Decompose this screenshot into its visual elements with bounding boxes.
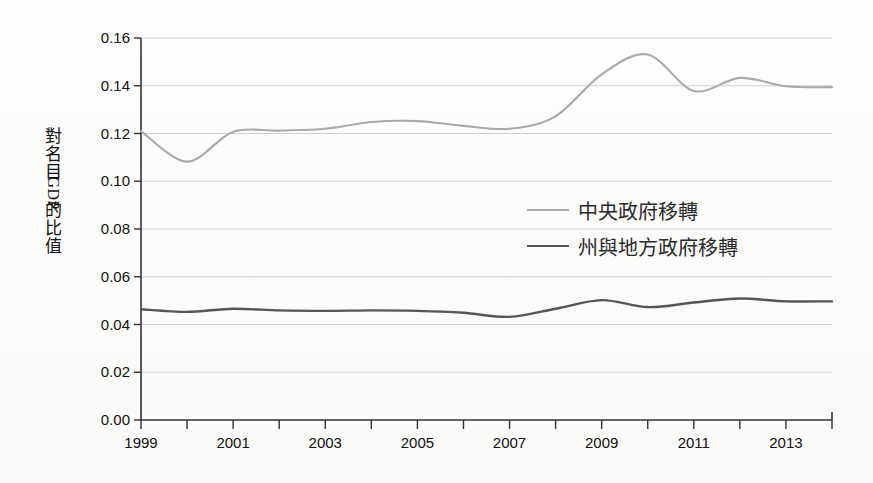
x-tick-label: 2011: [669, 434, 719, 451]
x-tick-label: 2009: [577, 434, 627, 451]
y-axis-title-char: 比: [38, 220, 68, 238]
chart-figure: 0.000.020.040.060.080.100.120.140.16 199…: [0, 0, 873, 483]
x-tick-label: 2013: [761, 434, 811, 451]
y-tick-label: 0.16: [82, 29, 130, 46]
y-axis-title-char: GDP: [45, 177, 62, 207]
y-tick-label: 0.10: [82, 172, 130, 189]
legend-item-1[interactable]: 州與地方政府移轉: [527, 228, 827, 264]
legend-swatch-state-local-government: [527, 245, 569, 247]
chart-legend: 中央政府移轉 州與地方政府移轉: [527, 192, 827, 264]
y-axis-title: 對名目GDP的比值: [38, 128, 68, 256]
y-tick-label: 0.00: [82, 411, 130, 428]
legend-item-0[interactable]: 中央政府移轉: [527, 192, 827, 228]
y-tick-label: 0.04: [82, 316, 130, 333]
x-tick-label: 2001: [208, 434, 258, 451]
x-tick-label: 2003: [300, 434, 350, 451]
y-tick-label: 0.14: [82, 77, 130, 94]
x-axis-ticks: [141, 420, 832, 429]
legend-label-state-local-government: 州與地方政府移轉: [578, 232, 738, 261]
data-series-group: [141, 54, 832, 317]
y-axis-title-char: 對: [38, 128, 68, 146]
x-tick-label: 1999: [116, 434, 166, 451]
y-axis-title-char: 名: [38, 146, 68, 164]
y-axis-ticks: [134, 38, 141, 420]
y-axis-title-char: 值: [38, 238, 68, 256]
y-tick-label: 0.12: [82, 125, 130, 142]
series-line-0: [141, 54, 832, 162]
x-tick-label: 2007: [485, 434, 535, 451]
y-tick-label: 0.08: [82, 220, 130, 237]
legend-swatch-central-government: [527, 209, 569, 211]
y-tick-label: 0.06: [82, 268, 130, 285]
x-tick-label: 2005: [392, 434, 442, 451]
legend-label-central-government: 中央政府移轉: [578, 196, 698, 225]
y-tick-label: 0.02: [82, 363, 130, 380]
series-line-1: [141, 298, 832, 316]
